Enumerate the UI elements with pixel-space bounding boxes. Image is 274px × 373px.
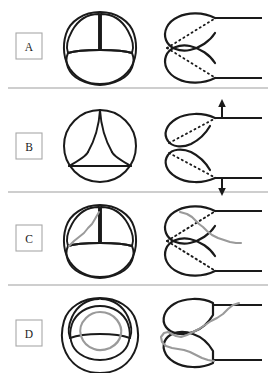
label-text: A <box>25 41 34 53</box>
label-text: B <box>25 141 33 153</box>
figure-background <box>0 0 274 373</box>
figure-svg: ABCD <box>0 0 274 373</box>
label-text: D <box>25 328 33 340</box>
figure-root: ABCD <box>0 0 274 373</box>
label-text: C <box>25 233 33 245</box>
